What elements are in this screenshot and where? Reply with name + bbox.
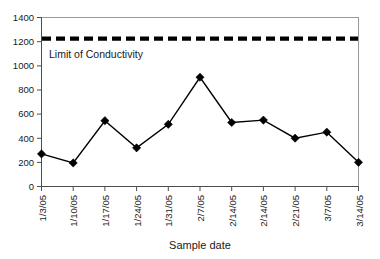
x-tick-label: 3/14/05 bbox=[354, 195, 365, 227]
y-tick-label: 400 bbox=[18, 133, 34, 144]
x-tick-label: 3/7/05 bbox=[322, 195, 333, 221]
y-tick-label: 1400 bbox=[13, 12, 34, 23]
x-tick-label: 2/21/05 bbox=[290, 195, 301, 227]
y-tick-label: 1000 bbox=[13, 60, 34, 71]
y-tick-label: 0 bbox=[29, 181, 34, 192]
y-tick-label: 800 bbox=[18, 84, 34, 95]
x-tick-label: 1/3/05 bbox=[37, 195, 48, 221]
chart-canvas: 0 200 400 600 800 1000 1200 1400 bbox=[0, 0, 380, 259]
x-axis-title: Sample date bbox=[169, 239, 231, 251]
y-tick-label: 1200 bbox=[13, 36, 34, 47]
x-tick-label: 2/7/05 bbox=[195, 195, 206, 221]
x-tick-label: 1/31/05 bbox=[163, 195, 174, 227]
conductivity-line-chart: 0 200 400 600 800 1000 1200 1400 bbox=[0, 0, 380, 259]
y-tick-label: 200 bbox=[18, 157, 34, 168]
x-tick-label: 1/17/05 bbox=[100, 195, 111, 227]
y-tick-label: 600 bbox=[18, 108, 34, 119]
x-tick-label: 1/24/05 bbox=[132, 195, 143, 227]
x-tick-label: 2/14/05 bbox=[258, 195, 269, 227]
limit-annotation-label: Limit of Conductivity bbox=[49, 48, 144, 60]
x-tick-label: 1/10/05 bbox=[68, 195, 79, 227]
x-tick-label: 2/14/05 bbox=[227, 195, 238, 227]
